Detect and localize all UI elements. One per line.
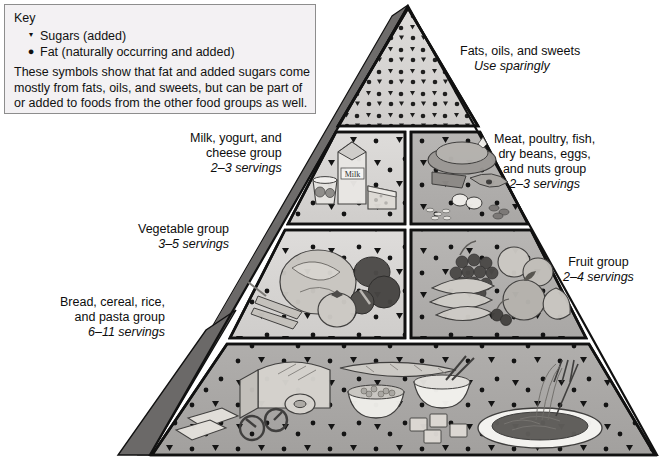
key-item-fat-label: Fat (naturally occurring and added) (40, 44, 235, 60)
tier-fruit (411, 230, 586, 338)
label-milk-servings: 2–3 servings (190, 161, 282, 176)
label-meat-poultry-fish: Meat, poultry, fish, dry beans, eggs, an… (494, 132, 595, 192)
label-fruit-line-1: Fruit group (563, 255, 634, 270)
label-fats-oils-sweets: Fats, oils, and sweets Use sparingly (460, 44, 580, 74)
key-note-line-3: or added to foods from the other food gr… (14, 96, 306, 112)
fat-dot-icon: ● (25, 43, 37, 59)
label-bread-line-2: and pasta group (60, 310, 165, 325)
label-fruit: Fruit group 2–4 servings (563, 255, 634, 285)
label-fruit-servings: 2–4 servings (563, 270, 634, 285)
tomato (318, 293, 356, 327)
tier-fats-oils-sweets (338, 8, 478, 126)
label-vegetable: Vegetable group 3–5 servings (138, 222, 229, 252)
label-fats-line-1: Fats, oils, and sweets (460, 44, 580, 59)
label-milk-yogurt-cheese: Milk, yogurt, and cheese group 2–3 servi… (190, 131, 282, 176)
pyramid-diagram: Milk (0, 0, 664, 463)
label-milk-line-1: Milk, yogurt, and (190, 131, 282, 146)
key-box: Key ▾ Sugars (added) ● Fat (naturally oc… (4, 4, 316, 114)
label-meat-line-1: Meat, poultry, fish, (494, 132, 595, 147)
label-vegetable-servings: 3–5 servings (138, 237, 229, 252)
label-vegetable-line-1: Vegetable group (138, 222, 229, 237)
label-fats-servings: Use sparingly (460, 59, 580, 74)
key-item-fat: ● Fat (naturally occurring and added) (14, 44, 306, 60)
label-meat-line-2: dry beans, eggs, (494, 147, 595, 162)
key-note-line-1: These symbols show that fat and added su… (14, 65, 306, 81)
key-note-line-2: mostly from fats, oils, and sweets, but … (14, 81, 306, 97)
key-note: These symbols show that fat and added su… (14, 65, 306, 112)
bananas (430, 278, 494, 320)
label-milk-line-2: cheese group (190, 146, 282, 161)
key-symbol-list: ▾ Sugars (added) ● Fat (naturally occurr… (14, 28, 306, 60)
label-bread-cereal-rice-pasta: Bread, cereal, rice, and pasta group 6–1… (60, 295, 165, 340)
milk-carton-label: Milk (345, 170, 361, 179)
key-item-sugars-label: Sugars (added) (40, 28, 126, 44)
key-heading: Key (14, 11, 306, 26)
apple (503, 280, 545, 320)
label-meat-servings: 2–3 servings (494, 177, 595, 192)
label-bread-line-1: Bread, cereal, rice, (60, 295, 165, 310)
key-item-sugars: ▾ Sugars (added) (14, 28, 306, 44)
label-meat-line-3: and nuts group (494, 162, 595, 177)
label-bread-servings: 6–11 servings (60, 325, 165, 340)
sugars-triangle-icon: ▾ (25, 27, 37, 43)
